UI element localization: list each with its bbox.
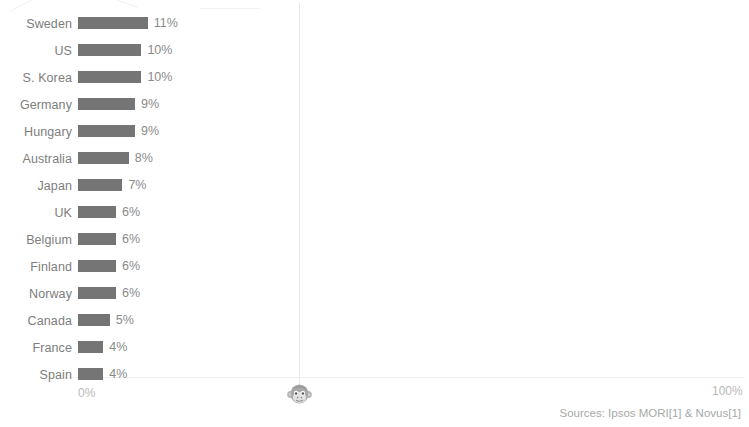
- bar-category-label: Spain: [0, 367, 72, 383]
- bar: [78, 341, 103, 353]
- bar-value-label: 6%: [122, 231, 140, 247]
- bar-row: Australia8%: [0, 149, 749, 176]
- bar: [78, 314, 110, 326]
- bar-rows: Sweden11%US10%S. Korea10%Germany9%Hungar…: [0, 14, 749, 392]
- bar-category-label: Japan: [0, 178, 72, 194]
- bar: [78, 125, 135, 137]
- bar-row: US10%: [0, 41, 749, 68]
- bar-category-label: S. Korea: [0, 70, 72, 86]
- bar-track: 9%: [78, 125, 733, 137]
- monkey-face-icon: [287, 384, 312, 405]
- bar-value-label: 9%: [141, 123, 159, 139]
- bar-value-label: 6%: [122, 204, 140, 220]
- bar-category-label: Germany: [0, 97, 72, 113]
- bar-value-label: 7%: [128, 177, 146, 193]
- bar-category-label: US: [0, 43, 72, 59]
- bar-track: 8%: [78, 152, 733, 164]
- bar-category-label: Belgium: [0, 232, 72, 248]
- bar-track: 6%: [78, 260, 733, 272]
- bar-track: 5%: [78, 314, 733, 326]
- bar-row: UK6%: [0, 203, 749, 230]
- bar-value-label: 5%: [116, 312, 134, 328]
- axis-tick-max: 100%: [712, 384, 743, 398]
- bar: [78, 179, 122, 191]
- bar-value-label: 6%: [122, 258, 140, 274]
- bar-category-label: Hungary: [0, 124, 72, 140]
- bar-track: 10%: [78, 44, 733, 56]
- bar: [78, 368, 103, 380]
- bar-track: 4%: [78, 341, 733, 353]
- bar-track: 6%: [78, 287, 733, 299]
- artifact-stroke: [9, 0, 32, 11]
- bar-row: Germany9%: [0, 95, 749, 122]
- bar-category-label: Australia: [0, 151, 72, 167]
- bar-row: Norway6%: [0, 284, 749, 311]
- bar-track: 4%: [78, 368, 733, 380]
- bar-row: Japan7%: [0, 176, 749, 203]
- bar: [78, 260, 116, 272]
- bar-row: Spain4%: [0, 365, 749, 392]
- bar-category-label: Sweden: [0, 16, 72, 32]
- artifact-stroke: [200, 8, 260, 9]
- bar-category-label: Norway: [0, 286, 72, 302]
- bar-track: 9%: [78, 98, 733, 110]
- bar-row: Belgium6%: [0, 230, 749, 257]
- bar-row: S. Korea10%: [0, 68, 749, 95]
- bar: [78, 44, 141, 56]
- bar-value-label: 6%: [122, 285, 140, 301]
- artifact-stroke: [116, 0, 137, 8]
- bar-track: 11%: [78, 17, 733, 29]
- bar-value-label: 9%: [141, 96, 159, 112]
- bar-row: Sweden11%: [0, 14, 749, 41]
- bar-category-label: Finland: [0, 259, 72, 275]
- bar-row: Finland6%: [0, 257, 749, 284]
- bar-category-label: Canada: [0, 313, 72, 329]
- bar: [78, 233, 116, 245]
- bar: [78, 17, 148, 29]
- bar-track: 7%: [78, 179, 733, 191]
- bar-track: 6%: [78, 233, 733, 245]
- bar-category-label: UK: [0, 205, 72, 221]
- top-edge-artifact: [0, 0, 749, 11]
- bar-value-label: 4%: [109, 339, 127, 355]
- bar-value-label: 4%: [109, 366, 127, 382]
- sources-note: Sources: Ipsos MORI[1] & Novus[1]: [559, 406, 741, 420]
- bar-row: Canada5%: [0, 311, 749, 338]
- bar: [78, 287, 116, 299]
- bar-track: 6%: [78, 206, 733, 218]
- bar-value-label: 8%: [135, 150, 153, 166]
- axis-tick-min: 0%: [78, 386, 95, 400]
- bar: [78, 98, 135, 110]
- bar-chart: Sweden11%US10%S. Korea10%Germany9%Hungar…: [0, 0, 749, 427]
- bar: [78, 206, 116, 218]
- bar-track: 10%: [78, 71, 733, 83]
- bar: [78, 152, 129, 164]
- bar-category-label: France: [0, 340, 72, 356]
- bar-row: Hungary9%: [0, 122, 749, 149]
- bar-value-label: 11%: [154, 15, 178, 31]
- bar-value-label: 10%: [147, 69, 172, 85]
- bar-value-label: 10%: [147, 42, 172, 58]
- bar: [78, 71, 141, 83]
- bar-row: France4%: [0, 338, 749, 365]
